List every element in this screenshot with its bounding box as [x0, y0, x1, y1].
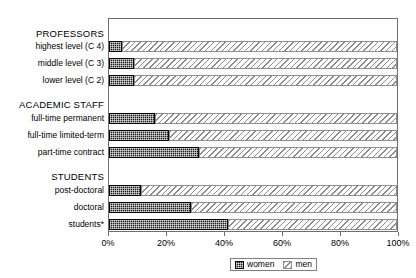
men-pattern-swatch: [283, 261, 292, 269]
bar-segment-women: [109, 58, 134, 69]
legend-item-men: men: [283, 260, 312, 269]
bar-row-post-doctoral: [109, 185, 397, 196]
x-tick-label-20: 20%: [157, 238, 175, 249]
bar-row-full-time-permanent: [109, 113, 397, 124]
stacked-bar-chart: PROFESSORShighest level (C 4)middle leve…: [0, 0, 416, 278]
women-pattern-swatch: [235, 261, 244, 269]
x-tick-label-40: 40%: [215, 238, 233, 249]
chart-legend: womenmen: [230, 258, 317, 271]
bar-segment-women: [109, 75, 134, 86]
x-tick-40: [224, 232, 225, 236]
bar-row-part-time-contract: [109, 147, 397, 158]
bar-segment-men: [141, 185, 397, 196]
legend-label: women: [247, 260, 274, 269]
bar-segment-women: [109, 113, 155, 124]
group-header-professors: PROFESSORS: [36, 28, 104, 39]
bar-row-lower-level-c-2: [109, 75, 397, 86]
row-label-part-time-contract: part-time contract: [38, 147, 104, 157]
x-tick-20: [166, 232, 167, 236]
row-label-highest-level-c-4: highest level (C 4): [35, 41, 104, 51]
x-tick-0: [108, 232, 109, 236]
bar-segment-men: [134, 58, 397, 69]
row-label-post-doctoral: post-doctoral: [55, 185, 104, 195]
x-tick-100: [398, 232, 399, 236]
bar-segment-men: [169, 130, 397, 141]
x-tick-80: [340, 232, 341, 236]
x-tick-label-80: 80%: [331, 238, 349, 249]
row-label-students: students*: [69, 219, 104, 229]
bar-segment-men: [122, 41, 397, 52]
category-label-column: PROFESSORShighest level (C 4)middle leve…: [0, 0, 106, 240]
x-tick-label-60: 60%: [273, 238, 291, 249]
bar-segment-men: [199, 147, 397, 158]
row-label-lower-level-c-2: lower level (C 2): [43, 75, 104, 85]
group-header-academic-staff: ACADEMIC STAFF: [19, 99, 104, 110]
bar-row-middle-level-c-3: [109, 58, 397, 69]
row-label-middle-level-c-3: middle level (C 3): [38, 58, 104, 68]
legend-label: men: [295, 260, 312, 269]
bar-row-full-time-limited-term: [109, 130, 397, 141]
bar-segment-women: [109, 202, 191, 213]
row-label-full-time-limited-term: full-time limited-term: [27, 130, 104, 140]
bar-segment-women: [109, 185, 141, 196]
bar-row-doctoral: [109, 202, 397, 213]
legend-item-women: women: [235, 260, 274, 269]
bar-segment-men: [191, 202, 397, 213]
x-tick-60: [282, 232, 283, 236]
plot-area: [108, 18, 398, 232]
bar-segment-women: [109, 147, 199, 158]
x-tick-label-100: 100%: [386, 238, 409, 249]
bar-segment-men: [228, 219, 397, 230]
bar-row-students: [109, 219, 397, 230]
bar-segment-women: [109, 130, 169, 141]
x-tick-label-0: 0%: [101, 238, 114, 249]
bar-segment-men: [134, 75, 397, 86]
group-header-students: STUDENTS: [51, 171, 104, 182]
bar-row-highest-level-c-4: [109, 41, 397, 52]
bar-segment-women: [109, 219, 228, 230]
bars-container: [109, 19, 397, 231]
bar-segment-men: [155, 113, 397, 124]
bar-segment-women: [109, 41, 122, 52]
row-label-full-time-permanent: full-time permanent: [31, 113, 104, 123]
row-label-doctoral: doctoral: [74, 202, 104, 212]
